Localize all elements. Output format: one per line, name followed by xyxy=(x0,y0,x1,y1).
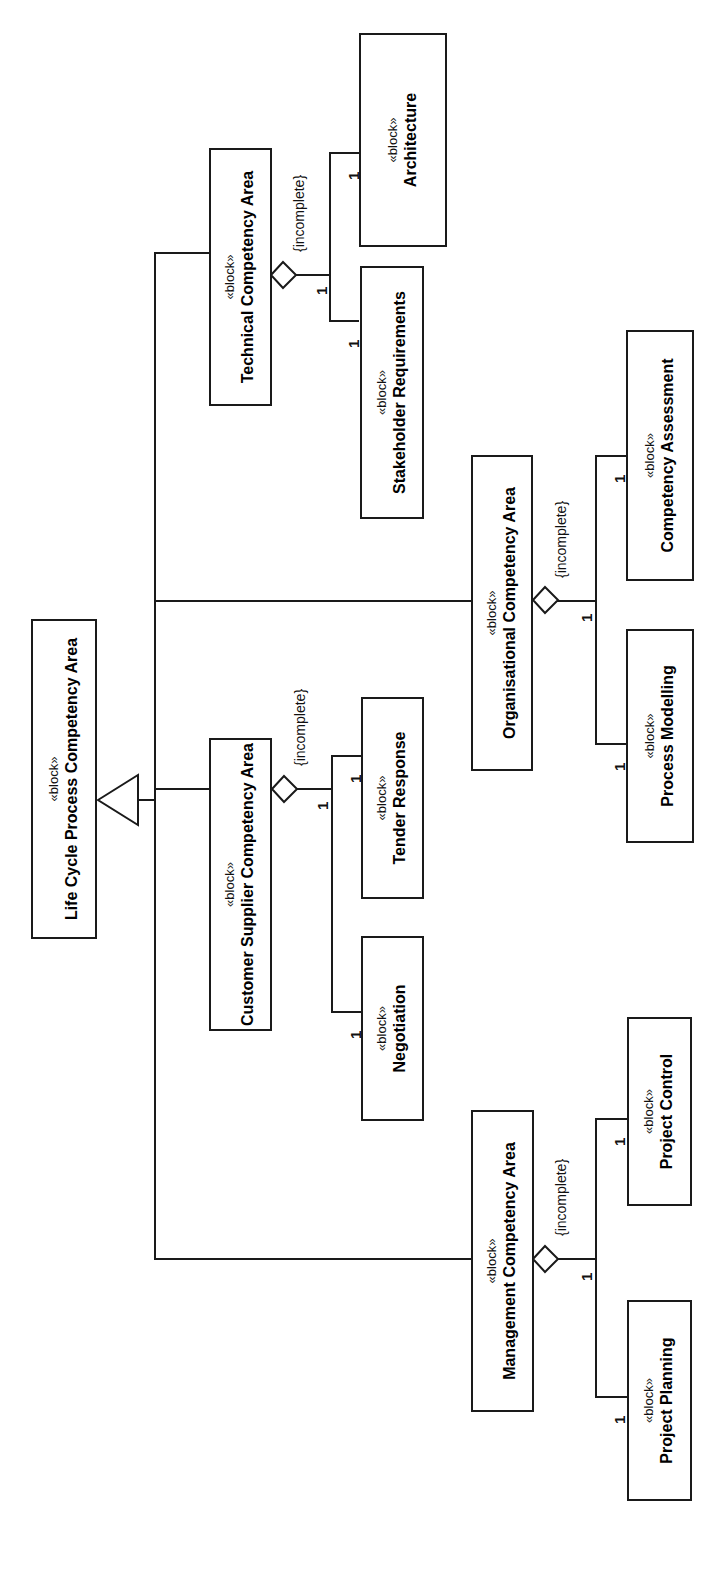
block-project-planning[interactable]: «block» Project Planning xyxy=(627,1300,692,1501)
aggregation-riser-management xyxy=(595,1118,597,1398)
multiplicity-technical-diamond: 1 xyxy=(313,287,330,295)
constraint-incomplete-technical: {incomplete} xyxy=(291,175,307,252)
block-stereotype: «block» xyxy=(375,1006,390,1051)
block-stereotype: «block» xyxy=(375,370,390,415)
aggregation-diamond-organisational xyxy=(533,587,558,613)
block-stereotype: «block» xyxy=(223,255,238,300)
block-name: Life Cycle Process Competency Area xyxy=(63,638,81,920)
multiplicity-organisational-diamond: 1 xyxy=(578,614,595,622)
block-stereotype: «block» xyxy=(375,776,390,821)
aggregation-arm-project-control xyxy=(595,1118,628,1120)
block-name: Customer Supplier Competency Area xyxy=(239,743,257,1026)
multiplicity-negotiation: 1 xyxy=(347,1031,364,1039)
block-name: Process Modelling xyxy=(659,665,677,806)
branch-technical xyxy=(154,252,210,254)
multiplicity-project-planning: 1 xyxy=(611,1416,628,1424)
block-name: Project Planning xyxy=(658,1337,676,1463)
block-name: Project Control xyxy=(658,1054,676,1170)
aggregation-arm-stakeholder xyxy=(329,320,359,322)
block-stereotype: «block» xyxy=(386,118,401,163)
generalization-trunk xyxy=(154,252,156,1260)
aggregation-riser-technical xyxy=(329,152,331,322)
block-name: Architecture xyxy=(402,93,420,187)
block-management-competency-area[interactable]: «block» Management Competency Area xyxy=(471,1110,534,1412)
block-name: Negotiation xyxy=(391,985,409,1073)
multiplicity-tender-response: 1 xyxy=(347,775,364,783)
aggregation-arm-tender-response xyxy=(331,755,362,757)
generalization-triangle xyxy=(98,775,138,825)
block-tender-response[interactable]: «block» Tender Response xyxy=(361,697,424,899)
block-name: Technical Competency Area xyxy=(239,171,257,384)
block-name: Stakeholder Requirements xyxy=(391,291,409,494)
block-stereotype: «block» xyxy=(642,1089,657,1134)
block-stereotype: «block» xyxy=(47,757,62,802)
block-stereotype: «block» xyxy=(642,1378,657,1423)
block-stakeholder-requirements[interactable]: «block» Stakeholder Requirements xyxy=(360,266,424,519)
aggregation-stub-organisational xyxy=(557,600,597,602)
block-technical-competency-area[interactable]: «block» Technical Competency Area xyxy=(209,148,272,406)
branch-customer-supplier xyxy=(154,788,211,790)
connector-glyphs xyxy=(0,0,709,1572)
block-name: Management Competency Area xyxy=(501,1142,519,1380)
bdd-canvas: «block» Life Cycle Process Competency Ar… xyxy=(0,0,709,1572)
block-name: Organisational Competency Area xyxy=(501,487,519,739)
aggregation-arm-process-modelling xyxy=(595,743,626,745)
block-stereotype: «block» xyxy=(643,433,658,478)
block-organisational-competency-area[interactable]: «block» Organisational Competency Area xyxy=(471,455,533,771)
block-competency-assessment[interactable]: «block» Competency Assessment xyxy=(626,330,694,581)
constraint-incomplete-customer-supplier: {incomplete} xyxy=(292,689,308,766)
block-architecture[interactable]: «block» Architecture xyxy=(359,33,447,247)
block-project-control[interactable]: «block» Project Control xyxy=(627,1017,692,1206)
aggregation-stub-customer-supplier xyxy=(296,788,333,790)
aggregation-riser-organisational xyxy=(595,455,597,745)
block-name: Tender Response xyxy=(391,731,409,864)
block-stereotype: «block» xyxy=(223,862,238,907)
multiplicity-project-control: 1 xyxy=(611,1138,628,1146)
aggregation-arm-architecture xyxy=(329,152,359,154)
multiplicity-management-diamond: 1 xyxy=(578,1273,595,1281)
multiplicity-competency-assessment: 1 xyxy=(611,475,628,483)
aggregation-arm-negotiation xyxy=(331,1011,362,1013)
aggregation-stub-technical xyxy=(295,274,331,276)
multiplicity-architecture: 1 xyxy=(345,172,362,180)
branch-management xyxy=(154,1258,472,1260)
block-life-cycle-process-competency-area[interactable]: «block» Life Cycle Process Competency Ar… xyxy=(31,619,97,939)
generalization-stub xyxy=(136,799,156,801)
aggregation-diamond-technical xyxy=(271,262,296,288)
constraint-incomplete-management: {incomplete} xyxy=(553,1159,569,1236)
block-process-modelling[interactable]: «block» Process Modelling xyxy=(626,629,694,843)
aggregation-arm-competency-assessment xyxy=(595,455,626,457)
multiplicity-customer-supplier-diamond: 1 xyxy=(314,802,331,810)
multiplicity-process-modelling: 1 xyxy=(611,763,628,771)
block-customer-supplier-competency-area[interactable]: «block» Customer Supplier Competency Are… xyxy=(209,738,272,1031)
constraint-incomplete-organisational: {incomplete} xyxy=(553,501,569,578)
aggregation-riser-customer-supplier xyxy=(331,755,333,1013)
branch-organisational xyxy=(154,600,472,602)
block-stereotype: «block» xyxy=(643,714,658,759)
aggregation-stub-management xyxy=(557,1258,597,1260)
block-stereotype: «block» xyxy=(485,1239,500,1284)
aggregation-diamond-customer-supplier xyxy=(272,776,297,802)
aggregation-arm-project-planning xyxy=(595,1396,628,1398)
block-stereotype: «block» xyxy=(485,591,500,636)
aggregation-diamond-management xyxy=(533,1246,558,1272)
block-name: Competency Assessment xyxy=(659,358,677,552)
block-negotiation[interactable]: «block» Negotiation xyxy=(361,936,424,1121)
multiplicity-stakeholder-requirements: 1 xyxy=(345,340,362,348)
